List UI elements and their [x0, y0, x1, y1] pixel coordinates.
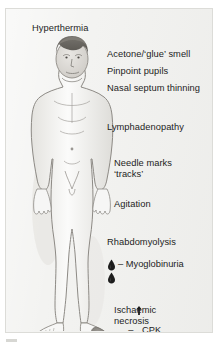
scan-artifact — [6, 339, 17, 342]
hand-right — [93, 189, 111, 214]
label-lymphadenopathy: Lymphadenopathy — [107, 122, 184, 133]
label-pinpoint-pupils: Pinpoint pupils — [107, 66, 168, 77]
blood-drop-icon — [107, 259, 116, 271]
label-needle-marks: Needle marks — [114, 158, 172, 169]
label-rhabdomyolysis: Rhabdomyolysis — [107, 237, 176, 248]
label-acetone-glue-smell: Acetone/‘glue’ smell — [107, 49, 190, 60]
label-hyperthermia: Hyperthermia — [32, 23, 88, 34]
label-nasal-septum-thinning: Nasal septum thinning — [107, 83, 200, 94]
label-myoglobinuria: – Myoglobinuria — [118, 259, 184, 270]
label-cpk: CPK — [142, 326, 161, 333]
foot-left — [38, 323, 63, 331]
label-agitation: Agitation — [114, 199, 151, 210]
label-needle-marks-tracks: ‘tracks’ — [114, 169, 143, 180]
pupil-right — [77, 56, 79, 58]
pupil-left — [65, 56, 67, 58]
diagram-panel: Hyperthermia Acetone/‘glue’ smell Pinpoi… — [5, 8, 213, 333]
cpk-row: – CPK — [118, 272, 161, 333]
blood-drop-icon — [107, 272, 116, 284]
up-arrow-icon — [136, 283, 142, 292]
